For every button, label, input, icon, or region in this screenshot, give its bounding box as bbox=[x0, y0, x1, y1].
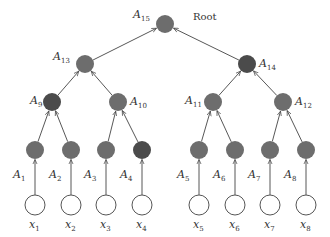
label-a14: A14 bbox=[258, 57, 276, 72]
edge-A11-to-A14 bbox=[219, 71, 241, 95]
edge-A6-to-A11 bbox=[217, 111, 231, 142]
edge-A2-to-A9 bbox=[55, 111, 67, 142]
edge-A8-to-A12 bbox=[287, 111, 302, 142]
edges-layer bbox=[35, 28, 306, 195]
edge-A9-to-A13 bbox=[58, 71, 79, 95]
input-x2 bbox=[61, 195, 81, 215]
node-a14 bbox=[238, 55, 256, 73]
node-a15 bbox=[156, 15, 174, 33]
label-a7: A7 bbox=[247, 168, 260, 183]
input-x8 bbox=[296, 195, 316, 215]
edge-A4-to-A10 bbox=[122, 110, 138, 141]
node-a8 bbox=[297, 141, 315, 159]
label-a15: A15 bbox=[132, 8, 150, 23]
node-a13 bbox=[76, 55, 94, 73]
nodes-layer bbox=[25, 15, 316, 215]
label-a4: A4 bbox=[119, 168, 133, 183]
label-x1: x1 bbox=[29, 218, 40, 233]
label-a8: A8 bbox=[283, 168, 296, 183]
edge-A10-to-A13 bbox=[91, 71, 112, 95]
label-a3: A3 bbox=[83, 168, 96, 183]
label-x8: x8 bbox=[300, 218, 311, 233]
label-a9: A9 bbox=[29, 94, 42, 109]
label-x7: x7 bbox=[264, 218, 275, 233]
input-x7 bbox=[260, 195, 280, 215]
node-a7 bbox=[261, 141, 279, 159]
node-a6 bbox=[226, 141, 244, 159]
input-x3 bbox=[96, 195, 116, 215]
input-x1 bbox=[25, 195, 45, 215]
input-x5 bbox=[189, 195, 209, 215]
node-a2 bbox=[62, 141, 80, 159]
label-a1: A1 bbox=[12, 168, 25, 183]
node-a12 bbox=[274, 93, 292, 111]
label-x6: x6 bbox=[229, 218, 240, 233]
node-a1 bbox=[26, 141, 44, 159]
node-a9 bbox=[43, 93, 61, 111]
edge-A12-to-A14 bbox=[254, 71, 277, 96]
node-a4 bbox=[133, 141, 151, 159]
edge-A13-to-A15 bbox=[93, 28, 156, 60]
label-x4: x4 bbox=[136, 218, 147, 233]
node-a3 bbox=[97, 141, 115, 159]
root-label: Root bbox=[193, 11, 217, 22]
edge-A5-to-A11 bbox=[202, 111, 211, 141]
node-a5 bbox=[190, 141, 208, 159]
tree-diagram: Root A15A13A14A9A10A11A12A1A2A3A4A5A6A7A… bbox=[0, 0, 330, 237]
input-x6 bbox=[225, 195, 245, 215]
input-x4 bbox=[132, 195, 152, 215]
label-a10: A10 bbox=[129, 95, 147, 110]
edge-A7-to-A12 bbox=[272, 111, 280, 141]
label-a5: A5 bbox=[176, 168, 189, 183]
label-x3: x3 bbox=[100, 218, 111, 233]
edge-A14-to-A15 bbox=[174, 28, 239, 60]
label-a6: A6 bbox=[212, 168, 226, 183]
label-x2: x2 bbox=[65, 218, 76, 233]
label-a12: A12 bbox=[294, 95, 312, 110]
label-a2: A2 bbox=[48, 168, 61, 183]
edge-A3-to-A10 bbox=[108, 111, 116, 141]
label-a13: A13 bbox=[52, 50, 70, 65]
label-x5: x5 bbox=[193, 218, 204, 233]
node-a10 bbox=[109, 93, 127, 111]
label-a11: A11 bbox=[184, 94, 202, 109]
node-a11 bbox=[204, 93, 222, 111]
edge-A1-to-A9 bbox=[38, 111, 49, 142]
